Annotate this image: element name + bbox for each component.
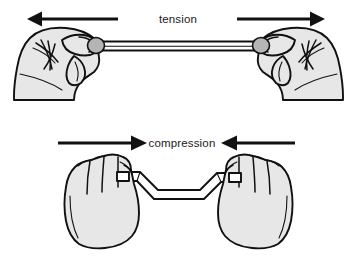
tension-left-thumb-tip: [88, 38, 105, 54]
compression-label: compression: [149, 137, 216, 149]
compression-rod-grip-left: [117, 172, 129, 181]
tension-right-thumb-tip: [253, 38, 270, 54]
physics-figure: tension: [0, 0, 357, 262]
compression-left-hand: [65, 155, 140, 249]
compression-right-hand: [218, 155, 293, 249]
tension-rod: [92, 42, 268, 51]
compression-rod-grip-right: [229, 173, 241, 182]
figure-canvas: tension: [0, 0, 357, 262]
tension-label: tension: [159, 13, 197, 25]
